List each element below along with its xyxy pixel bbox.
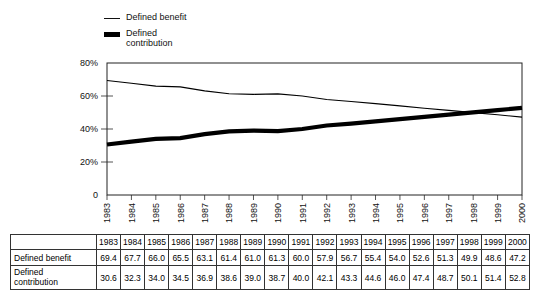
x-axis-tick-label: 1988 — [224, 203, 234, 223]
table-cell: 34.0 — [145, 266, 169, 290]
table-column-header: 1987 — [193, 235, 217, 250]
table-cell: 46.0 — [385, 266, 409, 290]
x-axis-tick-label: 1996 — [420, 203, 430, 223]
y-axis-tick-label: 0 — [93, 190, 98, 200]
x-axis-tick-label: 1984 — [127, 203, 137, 223]
x-axis-tick-label: 1992 — [322, 203, 332, 223]
table-column-header: 1993 — [337, 235, 361, 250]
table-column-header: 1999 — [481, 235, 505, 250]
table-cell: 47.2 — [505, 250, 529, 266]
table-cell: 47.4 — [409, 266, 433, 290]
table-cell: 52.8 — [505, 266, 529, 290]
table-cell: 69.4 — [97, 250, 121, 266]
table-cell: 56.7 — [337, 250, 361, 266]
table-cell: 54.0 — [385, 250, 409, 266]
table-cell: 51.4 — [481, 266, 505, 290]
table-cell: 63.1 — [193, 250, 217, 266]
y-axis-tick-label: 80% — [80, 58, 98, 68]
chart-legend: Defined benefit Defined contribution — [104, 12, 304, 52]
table-column-header: 1995 — [385, 235, 409, 250]
table-column-header: 2000 — [505, 235, 529, 250]
table-cell: 49.9 — [457, 250, 481, 266]
x-axis-tick-label: 1986 — [176, 203, 186, 223]
x-axis-tick-label: 1998 — [469, 203, 479, 223]
table-cell: 48.6 — [481, 250, 505, 266]
x-axis-tick-label: 1993 — [347, 203, 357, 223]
series-line-defined-contribution — [107, 108, 522, 145]
table-cell: 39.0 — [241, 266, 265, 290]
legend-item-label: Defined benefit — [126, 12, 187, 22]
x-axis-ticks: 1983198419851986198719881989199019911992… — [102, 195, 527, 223]
table-cell: 32.3 — [121, 266, 145, 290]
table-cell: 61.0 — [241, 250, 265, 266]
x-axis-tick-label: 2000 — [517, 203, 527, 223]
table-cell: 38.6 — [217, 266, 241, 290]
x-axis-tick-label: 1997 — [444, 203, 454, 223]
table-cell: 52.6 — [409, 250, 433, 266]
x-axis-tick-label: 1989 — [249, 203, 259, 223]
chart-canvas: 020%40%60%80% 19831984198519861987198819… — [0, 55, 542, 230]
table-cell: 40.0 — [289, 266, 313, 290]
table-cell: 48.7 — [433, 266, 457, 290]
table-column-header: 1983 — [97, 235, 121, 250]
table-cell: 65.5 — [169, 250, 193, 266]
table-cell: 38.7 — [265, 266, 289, 290]
table-cell: 61.4 — [217, 250, 241, 266]
legend-item-defined-contribution: Defined contribution — [104, 28, 304, 48]
table-cell: 50.1 — [457, 266, 481, 290]
table-cell: 66.0 — [145, 250, 169, 266]
y-axis-tick-label: 40% — [80, 124, 98, 134]
table-cell: 34.5 — [169, 266, 193, 290]
legend-item-label: Defined contribution — [126, 28, 173, 48]
legend-block-swatch-icon — [104, 28, 126, 40]
data-table-container: 1983198419851986198719881989199019911992… — [10, 234, 532, 290]
table-cell: 55.4 — [361, 250, 385, 266]
table-column-header: 1988 — [217, 235, 241, 250]
y-axis-tick-label: 20% — [80, 157, 98, 167]
table-column-header: 1996 — [409, 235, 433, 250]
table-cell: 60.0 — [289, 250, 313, 266]
table-row: Defined benefit69.467.766.065.563.161.46… — [11, 250, 530, 266]
table-cell: 42.1 — [313, 266, 337, 290]
table-cell: 30.6 — [97, 266, 121, 290]
table-cell: 51.3 — [433, 250, 457, 266]
line-chart: 020%40%60%80% 19831984198519861987198819… — [0, 55, 542, 230]
table-column-header: 1984 — [121, 235, 145, 250]
table-cell: 44.6 — [361, 266, 385, 290]
x-axis-tick-label: 1994 — [371, 203, 381, 223]
table-column-header: 1994 — [361, 235, 385, 250]
table-column-header: 1986 — [169, 235, 193, 250]
table-cell: 67.7 — [121, 250, 145, 266]
x-axis-tick-label: 1990 — [273, 203, 283, 223]
table-row-header: Defined contribution — [11, 266, 97, 290]
data-table: 1983198419851986198719881989199019911992… — [10, 234, 530, 290]
y-axis-ticks: 020%40%60%80% — [80, 58, 113, 200]
y-axis-tick-label: 60% — [80, 91, 98, 101]
table-column-header: 1991 — [289, 235, 313, 250]
x-axis-tick-label: 1985 — [151, 203, 161, 223]
x-axis-tick-label: 1991 — [298, 203, 308, 223]
table-column-header: 1997 — [433, 235, 457, 250]
x-axis-tick-label: 1987 — [200, 203, 210, 223]
table-cell: 57.9 — [313, 250, 337, 266]
legend-item-defined-benefit: Defined benefit — [104, 12, 304, 24]
x-axis-tick-label: 1983 — [102, 203, 112, 223]
table-cell: 43.3 — [337, 266, 361, 290]
x-axis-tick-label: 1999 — [493, 203, 503, 223]
x-axis-tick-label: 1995 — [395, 203, 405, 223]
legend-line-swatch-icon — [104, 12, 126, 24]
table-cell: 36.9 — [193, 266, 217, 290]
table-row: Defined contribution30.632.334.034.536.9… — [11, 266, 530, 290]
table-header-row: 1983198419851986198719881989199019911992… — [11, 235, 530, 250]
table-column-header: 1998 — [457, 235, 481, 250]
table-column-header: 1990 — [265, 235, 289, 250]
table-column-header: 1992 — [313, 235, 337, 250]
table-cell: 61.3 — [265, 250, 289, 266]
table-column-header: 1989 — [241, 235, 265, 250]
table-column-header: 1985 — [145, 235, 169, 250]
table-corner-cell — [11, 235, 97, 250]
table-row-header: Defined benefit — [11, 250, 97, 266]
